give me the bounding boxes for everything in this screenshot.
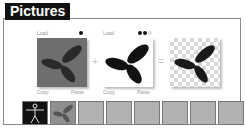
vitruvian-man-icon [23,102,47,124]
radio-dot-mask-1[interactable] [138,31,142,35]
thumbnail-empty[interactable] [78,101,104,125]
leaves-icon [51,102,75,124]
thumbnail-empty[interactable] [190,101,216,125]
window-title: Pictures [5,3,70,20]
paste-label-mask[interactable]: Paste [137,89,150,95]
copy-label-mask[interactable]: Copy [103,89,115,95]
thumbnail-empty[interactable] [134,101,160,125]
result-image-panel[interactable] [170,38,220,87]
thumbnail-empty[interactable] [218,101,244,125]
mask-image-panel[interactable] [103,38,153,87]
radio-dot-source[interactable] [79,31,83,35]
radio-dot-mask-3[interactable] [148,31,152,35]
leaves-icon [103,38,153,87]
thumbnail-leaves[interactable] [50,101,76,125]
load-label-source[interactable]: Load [37,30,48,36]
thumbnail-empty[interactable] [106,101,132,125]
thumbnail-empty[interactable] [162,101,188,125]
equals-operator: = [158,57,164,67]
load-label-mask[interactable]: Load [103,30,114,36]
paste-label-source[interactable]: Paste [71,89,84,95]
thumbnail-vitruvian-man[interactable] [22,101,48,125]
source-image-panel[interactable] [37,38,87,87]
leaves-icon [37,38,87,87]
plus-operator: + [92,57,98,67]
thumbnail-strip [22,101,244,124]
leaves-icon [170,38,220,87]
copy-label-source[interactable]: Copy [37,89,49,95]
radio-dot-mask-2[interactable] [143,31,147,35]
